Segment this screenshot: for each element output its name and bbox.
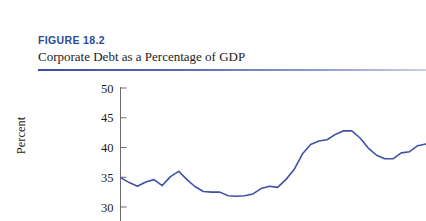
y-axis-ticks [121,88,127,207]
figure-number-label: FIGURE 18.2 [38,34,426,47]
y-axis-title: Percent [14,99,29,173]
y-axis-tick-label: 45 [101,111,114,125]
y-axis-tick-labels: 3035404550 [101,82,114,215]
figure-header: FIGURE 18.2 Corporate Debt as a Percenta… [38,34,426,65]
figure-title: Corporate Debt as a Percentage of GDP [38,49,426,65]
header-divider-rule [38,69,426,71]
y-axis-tick-label: 35 [101,171,114,185]
figure-root: FIGURE 18.2 Corporate Debt as a Percenta… [0,0,426,221]
y-axis-tick-label: 50 [101,82,114,96]
y-axis-tick-label: 30 [101,201,114,215]
data-series-line [121,131,426,196]
chart-area: Percent 3035404550 [0,76,426,221]
y-axis-tick-label: 40 [101,141,114,155]
line-chart-svg: 3035404550 [0,76,426,221]
